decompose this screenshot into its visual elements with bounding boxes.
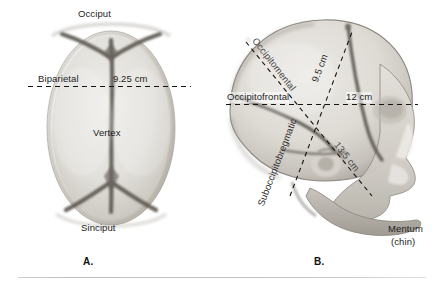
label-biparietal-value: 9.25 cm	[113, 74, 148, 85]
label-occipitofrontal: Occipitofrontal	[227, 92, 289, 103]
panel-a-caption: A.	[83, 256, 94, 267]
label-mentum-chin: (chin)	[391, 237, 415, 248]
panel-a-superior-view: Occiput Biparietal 9.25 cm Vertex Sincip…	[0, 0, 222, 291]
label-mentum: Mentum	[388, 224, 423, 235]
footer-divider	[18, 277, 426, 278]
panel-a-skull-illustration	[0, 0, 222, 291]
label-occiput: Occiput	[78, 9, 111, 20]
panel-b-lateral-view: Occipitofrontal 12 cm Occipitomental 13.…	[222, 0, 444, 291]
label-occipitofrontal-value: 12 cm	[346, 92, 372, 103]
label-sinciput: Sinciput	[81, 223, 116, 234]
fetal-skull-diameters-figure: Occiput Biparietal 9.25 cm Vertex Sincip…	[0, 0, 444, 291]
panel-b-caption: B.	[314, 256, 325, 267]
label-vertex: Vertex	[93, 128, 121, 139]
label-biparietal: Biparietal	[38, 74, 79, 85]
